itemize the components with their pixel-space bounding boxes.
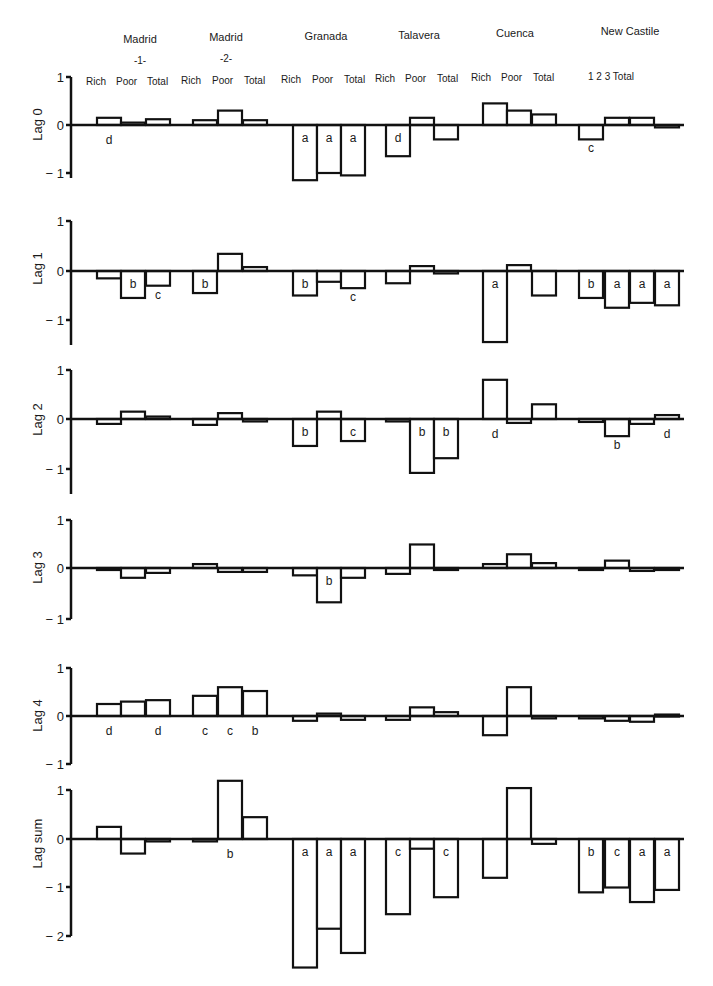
- significance-label: c: [341, 425, 365, 439]
- significance-label: a: [341, 845, 365, 859]
- bar: [97, 704, 121, 716]
- significance-label: c: [605, 845, 629, 859]
- bar: [218, 687, 242, 716]
- bar: [121, 568, 145, 578]
- bar: [434, 125, 458, 139]
- significance-label: b: [605, 438, 629, 452]
- bar: [146, 271, 170, 286]
- significance-label: b: [121, 277, 145, 291]
- significance-label: b: [293, 425, 317, 439]
- significance-label: a: [317, 131, 341, 145]
- significance-label: b: [293, 277, 317, 291]
- significance-label: d: [655, 427, 679, 441]
- bar: [532, 271, 556, 296]
- significance-label: d: [97, 133, 121, 147]
- significance-label: b: [243, 724, 267, 738]
- bar: [218, 111, 242, 125]
- bar: [410, 839, 434, 849]
- bar: [218, 254, 242, 271]
- bar: [386, 271, 410, 283]
- significance-label: b: [317, 574, 341, 588]
- bar: [193, 696, 217, 716]
- significance-label: c: [579, 141, 603, 155]
- bar: [507, 788, 531, 839]
- bar: [532, 114, 556, 125]
- significance-label: a: [630, 277, 654, 291]
- significance-label: b: [579, 277, 603, 291]
- significance-label: a: [655, 845, 679, 859]
- significance-label: a: [317, 845, 341, 859]
- bar: [121, 839, 145, 854]
- significance-label: b: [193, 277, 217, 291]
- significance-label: d: [483, 427, 507, 441]
- bar: [579, 125, 603, 139]
- panel-5: [66, 781, 684, 968]
- significance-label: a: [483, 277, 507, 291]
- significance-label: c: [341, 290, 365, 304]
- bar: [483, 716, 507, 735]
- bar: [507, 554, 531, 568]
- significance-label: b: [579, 845, 603, 859]
- significance-label: d: [97, 724, 121, 738]
- significance-label: d: [146, 724, 170, 738]
- bar: [507, 111, 531, 125]
- significance-label: b: [218, 847, 242, 861]
- bar: [243, 817, 267, 839]
- significance-label: c: [193, 724, 217, 738]
- bar: [507, 687, 531, 716]
- bar: [341, 568, 365, 578]
- significance-label: d: [386, 131, 410, 145]
- significance-label: c: [386, 845, 410, 859]
- panel-0: [66, 77, 684, 180]
- bar: [121, 702, 145, 716]
- panel-4: [66, 668, 684, 764]
- bar-chart-plot: [0, 0, 713, 986]
- bar: [317, 271, 341, 282]
- significance-label: a: [630, 845, 654, 859]
- bar: [410, 544, 434, 568]
- bar: [410, 707, 434, 716]
- significance-label: c: [146, 288, 170, 302]
- bar: [243, 691, 267, 716]
- significance-label: c: [218, 724, 242, 738]
- significance-label: a: [655, 277, 679, 291]
- significance-label: b: [434, 425, 458, 439]
- significance-label: c: [434, 845, 458, 859]
- significance-label: a: [293, 845, 317, 859]
- significance-label: a: [341, 131, 365, 145]
- bar: [341, 271, 365, 288]
- bar: [532, 404, 556, 419]
- panel-3: [66, 520, 684, 619]
- significance-label: b: [410, 425, 434, 439]
- bar: [97, 827, 121, 839]
- bar: [483, 380, 507, 419]
- bar: [483, 103, 507, 125]
- bar: [605, 419, 629, 436]
- bar: [146, 700, 170, 716]
- significance-label: a: [605, 277, 629, 291]
- significance-label: a: [293, 131, 317, 145]
- panel-2: [66, 370, 684, 494]
- bar: [218, 781, 242, 839]
- bar: [483, 839, 507, 878]
